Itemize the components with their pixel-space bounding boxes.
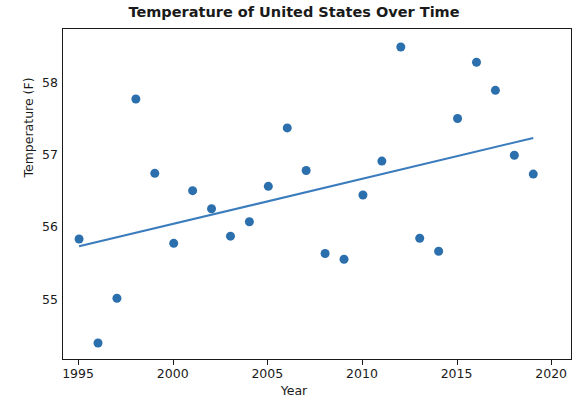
x-tick-label: 2020 (521, 366, 581, 381)
chart-title: Temperature of United States Over Time (0, 4, 588, 20)
data-point (491, 86, 500, 95)
y-tick-label: 57 (32, 147, 58, 162)
data-point (75, 235, 84, 244)
data-point (529, 170, 538, 179)
data-point (434, 247, 443, 256)
data-point (415, 234, 424, 243)
y-tick-label: 55 (32, 291, 58, 306)
x-tick-label: 2000 (143, 366, 203, 381)
data-point (321, 249, 330, 258)
data-points (75, 43, 538, 348)
temperature-scatter-chart: Temperature of United States Over Time T… (0, 0, 588, 405)
data-point (453, 114, 462, 123)
trend-line (79, 138, 533, 246)
data-point (131, 95, 140, 104)
data-point (245, 217, 254, 226)
data-point (169, 239, 178, 248)
data-point (377, 157, 386, 166)
data-point (510, 151, 519, 160)
trend-line-path (79, 138, 533, 246)
data-point (150, 169, 159, 178)
x-tick-label: 1995 (48, 366, 108, 381)
data-point (340, 255, 349, 264)
data-point (226, 232, 235, 241)
x-tick-label: 2010 (332, 366, 392, 381)
y-tick-label: 58 (32, 75, 58, 90)
data-point (283, 123, 292, 132)
data-point (188, 186, 197, 195)
x-tick-label: 2005 (237, 366, 297, 381)
data-point (94, 338, 103, 347)
x-tick-label: 2015 (427, 366, 487, 381)
plot-area (62, 28, 572, 360)
data-point (472, 58, 481, 67)
data-point (112, 294, 121, 303)
data-point (358, 191, 367, 200)
data-point (396, 43, 405, 52)
plot-canvas (63, 29, 573, 361)
x-axis-tick-labels: 199520002005201020152020 (0, 360, 588, 386)
y-axis-tick-labels: 55565758 (28, 0, 58, 405)
y-tick-label: 56 (32, 219, 58, 234)
data-point (207, 204, 216, 213)
data-point (302, 166, 311, 175)
data-point (264, 182, 273, 191)
